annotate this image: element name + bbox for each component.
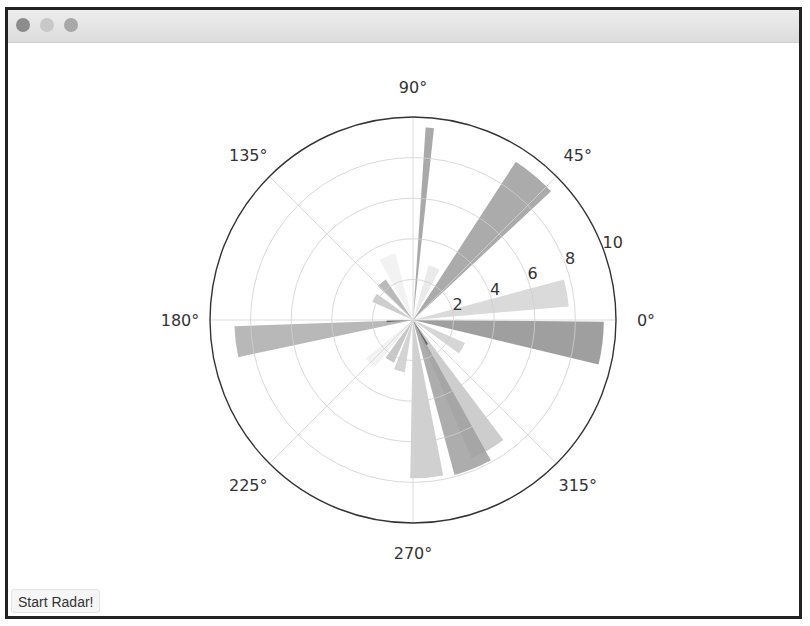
theta-tick-label: 135° (229, 146, 268, 165)
theta-tick-label: 45° (564, 146, 592, 165)
minimize-button[interactable] (40, 18, 54, 32)
radial-tick-label: 2 (453, 295, 463, 314)
theta-tick-label: 0° (637, 311, 655, 330)
polar-chart: 0°45°90°135°180°225°270°315°246810 (8, 43, 799, 616)
radial-tick-label: 6 (528, 264, 538, 283)
theta-tick-label: 180° (161, 311, 200, 330)
theta-tick-label: 225° (229, 476, 268, 495)
radial-tick-label: 8 (565, 249, 575, 268)
radial-tick-label: 10 (603, 233, 623, 252)
title-bar (8, 10, 799, 43)
app-window: 0°45°90°135°180°225°270°315°246810 Start… (5, 7, 802, 619)
radar-canvas: 0°45°90°135°180°225°270°315°246810 (8, 43, 799, 616)
close-button[interactable] (16, 18, 30, 32)
zoom-button[interactable] (64, 18, 78, 32)
theta-tick-label: 90° (399, 78, 427, 97)
radial-tick-label: 4 (490, 280, 500, 299)
theta-tick-label: 315° (558, 476, 597, 495)
angular-gridline (269, 176, 413, 320)
theta-tick-label: 270° (394, 544, 433, 563)
start-radar-button[interactable]: Start Radar! (11, 589, 100, 613)
